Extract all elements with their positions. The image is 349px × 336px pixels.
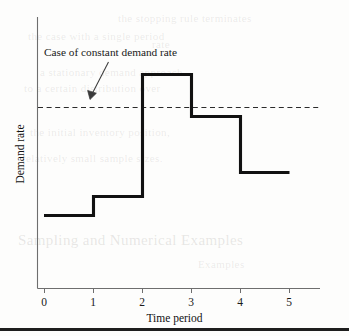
x-tick-label-3: 3	[178, 296, 204, 308]
annotation-arrow-icon	[88, 62, 109, 100]
x-tick-label-2: 2	[129, 296, 155, 308]
figure-container: the stopping rule terminates rate the ca…	[0, 0, 349, 336]
x-axis-ticks	[45, 289, 290, 294]
page-bottom-rule	[0, 328, 349, 331]
annotation-label: Case of constant demand rate	[44, 46, 177, 58]
x-tick-label-0: 0	[31, 296, 57, 308]
x-tick-label-1: 1	[80, 296, 106, 308]
x-tick-label-5: 5	[276, 296, 302, 308]
y-axis-title: Demand rate	[14, 124, 26, 184]
x-tick-label-4: 4	[227, 296, 253, 308]
x-axis-title: Time period	[0, 312, 349, 324]
demand-step-curve	[44, 75, 290, 216]
